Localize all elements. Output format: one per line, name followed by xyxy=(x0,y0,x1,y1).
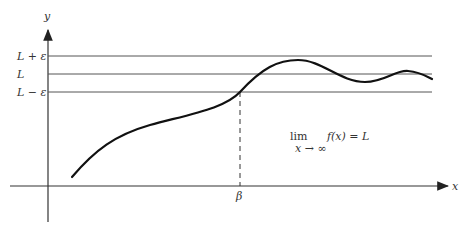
beta-label: β xyxy=(235,190,242,203)
lower-bound-label: L − ε xyxy=(16,86,47,99)
x-axis-label: x xyxy=(452,180,459,193)
y-axis-label: y xyxy=(43,10,51,23)
formula-expression: f(x) = L xyxy=(326,130,369,143)
function-curve xyxy=(72,60,432,177)
limit-label: L xyxy=(16,68,24,81)
formula-subscript: x → ∞ xyxy=(295,142,327,155)
upper-bound-label: L + ε xyxy=(16,50,47,63)
limit-diagram: y x L + ε L L − ε β lim x → ∞ f(x) = L xyxy=(0,0,461,229)
